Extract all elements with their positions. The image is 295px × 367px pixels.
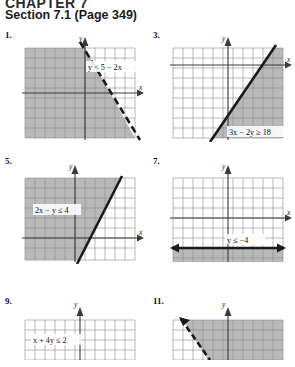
problem-1: 1. [0,28,147,144]
equation-text: x + 4y ≤ 2 [33,336,67,345]
problem-number: 7. [153,156,160,166]
equation-label: y ≤ −4 [225,234,265,245]
worksheet-page: CHAPTER 7 Section 7.1 (Page 349) 1. [0,0,295,367]
graph-9: y x + 4y ≤ 2 [22,300,144,360]
problem-number: 9. [5,296,12,306]
y-axis-label: y [221,34,226,43]
y-axis-label: y [78,34,83,43]
equation-text: 2x − y ≤ 4 [35,206,69,215]
equation-label: 2x − y ≤ 4 [33,204,81,215]
x-axis-label: x [286,208,291,217]
equation-text: 3x − 2y ≥ 18 [229,128,271,137]
problem-number: 5. [5,156,12,166]
x-axis-label: x [286,55,291,64]
problem-number: 3. [153,30,160,40]
problem-number: 1. [5,30,12,40]
graph-7: x y y ≤ −4 [170,160,292,264]
problem-7: 7. [148,148,295,264]
graph-11: y [170,300,292,360]
x-axis-label: x [138,83,143,92]
equation-label: y < 5 − 2x [86,61,138,72]
y-axis-arrow [225,307,232,316]
y-axis-arrow [72,165,79,174]
y-axis-arrow [77,307,84,316]
problem-9: 9. [0,292,147,367]
y-axis-label: y [68,162,73,171]
y-axis-label: y [73,300,78,309]
equation-label: x + 4y ≤ 2 [31,334,81,345]
graph-3: x y 3x − 2y ≥ 18 [170,34,292,142]
equation-text: y ≤ −4 [227,236,248,245]
section-heading: Section 7.1 (Page 349) [5,8,137,22]
y-axis-arrow [225,165,232,174]
shaded-region [213,48,283,138]
graph-5: x y 2x − y ≤ 4 [22,160,144,264]
y-axis-label: y [221,162,226,171]
problem-3: 3. [148,28,295,144]
x-axis-label: x [138,228,143,237]
equation-label: 3x − 2y ≥ 18 [227,126,285,137]
problem-number: 11. [153,296,164,306]
equation-text: y < 5 − 2x [88,63,122,72]
problem-11: 11. [148,292,295,367]
y-axis-arrow [225,37,232,46]
graph-1: x y y < 5 − 2x [22,34,144,142]
y-axis-label: y [221,300,226,309]
problem-5: 5. [0,148,147,264]
